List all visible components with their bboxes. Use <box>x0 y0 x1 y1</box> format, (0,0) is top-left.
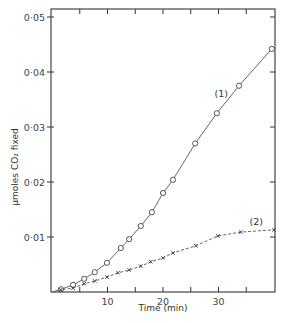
circle-marker <box>82 276 87 281</box>
y-tick-label: 0·05 <box>24 12 45 23</box>
circle-marker <box>149 210 154 215</box>
series-line <box>53 230 274 292</box>
circle-marker <box>104 260 109 265</box>
x-axis-title: Time (min) <box>138 303 188 313</box>
y-tick-label: 0·01 <box>24 232 45 243</box>
series-label: (2) <box>250 216 263 227</box>
plot-border <box>51 9 275 292</box>
x-tick-label: 10 <box>101 296 113 307</box>
y-tick-label: 0·04 <box>24 67 45 78</box>
chart: 1020300·010·020·030·040·05 (1)(2) Time (… <box>0 0 287 323</box>
circle-marker <box>92 270 97 275</box>
x-tick-label: 30 <box>212 296 224 307</box>
circle-marker <box>138 223 143 228</box>
x-marker <box>194 244 198 248</box>
x-marker <box>116 271 120 275</box>
y-axis-title: μmoles CO₂ fixed <box>10 128 20 205</box>
x-marker <box>149 260 153 264</box>
series-1: (1) <box>53 46 274 292</box>
data-series: (1)(2) <box>53 46 276 292</box>
series-label: (1) <box>215 88 228 99</box>
x-marker <box>161 256 165 260</box>
circle-marker <box>214 111 219 116</box>
circle-marker <box>193 141 198 146</box>
x-marker <box>82 282 86 286</box>
circle-marker <box>160 190 165 195</box>
y-tick-label: 0·02 <box>24 177 45 188</box>
circle-marker <box>127 237 132 242</box>
circle-marker <box>269 46 274 51</box>
y-tick-label: 0·03 <box>24 122 45 133</box>
circle-marker <box>118 245 123 250</box>
plot-frame <box>51 9 275 292</box>
circle-marker <box>170 177 175 182</box>
x-marker <box>105 275 109 279</box>
circle-marker <box>236 83 241 88</box>
